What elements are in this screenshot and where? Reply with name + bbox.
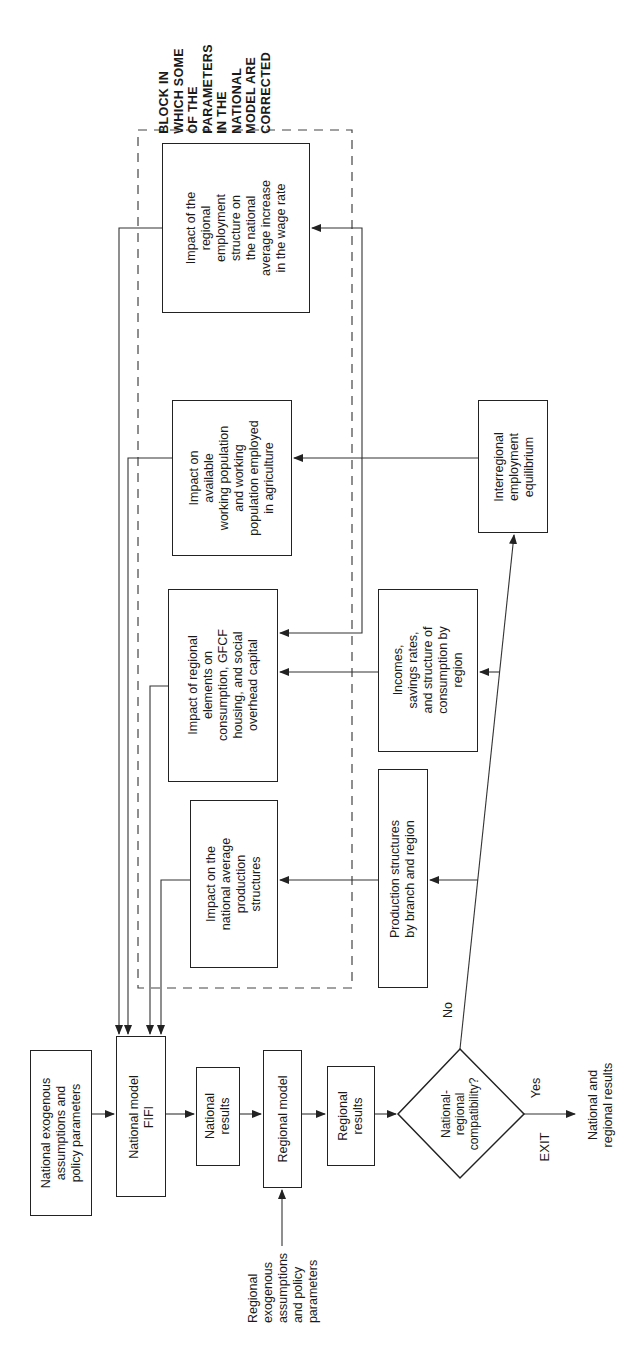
wire-prodimpact-to-fifi [161,880,190,1034]
wire-wage-to-fifi [119,228,162,1034]
wire-cons-to-fifi [150,686,168,1034]
label-decision-question: National- regional compatibility? [438,1066,482,1162]
label-regional-exogenous: Regional exogenous assumptions and polic… [241,1233,325,1343]
label-production-structures: Production structures by branch and regi… [380,772,426,986]
label-national-model-fifi: National model FIFI [119,1039,165,1196]
connector-layer [0,0,625,1366]
label-national-results: National results [198,1068,238,1164]
label-decision-no: No [440,998,456,1022]
label-agriculture-impact: Impact on available working population a… [175,400,289,556]
correction-block-caption: BLOCK IN WHICH SOME OF THE PARAMETERS IN… [153,26,277,152]
label-production-impact: Impact on the national average productio… [193,800,275,968]
label-decision-yes: Yes [528,1074,544,1102]
wire-interregional-to-cons [280,458,362,633]
label-regional-model: Regional model [265,1052,301,1187]
label-incomes: Incomes, savings rates, and structure of… [381,592,475,749]
label-interregional-equilibrium: Interregional employment equilibrium [481,404,547,531]
label-exit-output: National and regional results [582,1053,620,1157]
label-exit: EXIT [535,1127,553,1167]
label-wage-rate-impact: Impact of the regional employment struct… [167,143,305,313]
wire-interregional-to-wage [312,228,478,458]
label-regional-results: Regional results [330,1068,372,1164]
label-national-exogenous: National exogenous assumptions and polic… [31,1051,91,1215]
label-consumption-impact: Impact of regional elements on consumpti… [171,589,275,782]
